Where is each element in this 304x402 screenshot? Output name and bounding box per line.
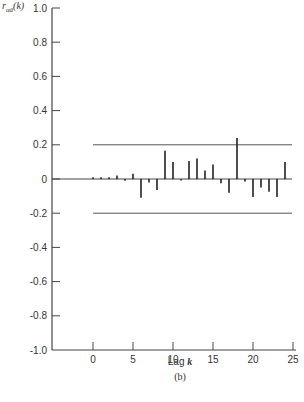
y-tick-label: -0.8 bbox=[30, 310, 48, 321]
y-tick-label: 0.2 bbox=[33, 139, 47, 150]
x-tick-label: 5 bbox=[130, 354, 136, 365]
y-tick-label: 1.0 bbox=[33, 3, 47, 14]
x-axis: 0510152025 bbox=[52, 179, 299, 365]
y-tick-label: -1.0 bbox=[30, 345, 48, 356]
y-tick-label: 0.8 bbox=[33, 37, 47, 48]
x-tick-label: 25 bbox=[287, 354, 299, 365]
x-axis-label: Lag k bbox=[160, 356, 200, 367]
y-tick-label: -0.2 bbox=[30, 208, 48, 219]
x-tick-label: 15 bbox=[207, 354, 219, 365]
acf-chart: 1.00.80.60.40.20-0.2-0.4-0.6-0.8-1.0 051… bbox=[0, 0, 304, 402]
panel-label: (b) bbox=[160, 371, 200, 382]
y-tick-label: 0.4 bbox=[33, 105, 47, 116]
y-tick-label: 0.6 bbox=[33, 71, 47, 82]
acf-stems bbox=[93, 138, 285, 198]
y-axis-label: rαâ(k) bbox=[2, 0, 24, 14]
y-tick-label: -0.6 bbox=[30, 276, 48, 287]
y-tick-label: 0 bbox=[41, 174, 47, 185]
x-tick-label: 0 bbox=[90, 354, 96, 365]
y-tick-label: -0.4 bbox=[30, 242, 48, 253]
x-tick-label: 20 bbox=[247, 354, 259, 365]
